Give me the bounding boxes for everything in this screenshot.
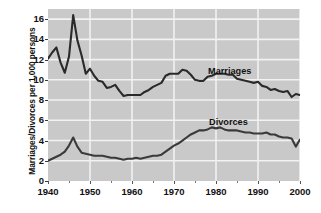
y-tick-mark [45, 19, 48, 20]
y-axis-tick-labels: 0246810121416 [22, 0, 44, 213]
x-tick-mark-minor [279, 181, 280, 183]
y-tick-mark [45, 120, 48, 121]
x-tick-mark-major [216, 181, 217, 184]
y-tick-label: 10 [26, 75, 44, 85]
y-tick-mark [45, 60, 48, 61]
series-label-marriages: Marriages [208, 66, 251, 76]
x-tick-label: 1940 [28, 186, 68, 197]
y-tick-label: 2 [26, 156, 44, 166]
y-tick-label: 4 [26, 136, 44, 146]
y-tick-label: 0 [26, 176, 44, 186]
y-tick-mark [45, 80, 48, 81]
x-tick-mark-minor [153, 181, 154, 183]
x-tick-mark-major [132, 181, 133, 184]
x-axis-tick-labels: 1940195019601970198019902000 [0, 186, 321, 202]
x-tick-mark-minor [195, 181, 196, 183]
gridlines [48, 9, 300, 181]
y-tick-mark [45, 141, 48, 142]
x-tick-label: 1960 [112, 186, 152, 197]
series-label-divorces: Divorces [209, 117, 248, 127]
y-tick-label: 12 [26, 55, 44, 65]
x-tick-mark-major [90, 181, 91, 184]
x-tick-mark-minor [111, 181, 112, 183]
y-tick-label: 6 [26, 115, 44, 125]
x-tick-mark-major [258, 181, 259, 184]
x-tick-mark-major [174, 181, 175, 184]
x-tick-mark-major [300, 181, 301, 184]
plot-svg [48, 9, 300, 181]
x-tick-label: 1980 [196, 186, 236, 197]
y-tick-mark [45, 100, 48, 101]
x-tick-label: 1950 [70, 186, 110, 197]
x-tick-label: 1970 [154, 186, 194, 197]
x-tick-label: 1990 [238, 186, 278, 197]
plot-frame [48, 9, 300, 181]
x-tick-label: 2000 [280, 186, 320, 197]
y-tick-label: 16 [26, 14, 44, 24]
x-tick-mark-minor [237, 181, 238, 183]
y-tick-mark [45, 161, 48, 162]
chart-container: Marriages/Divorces per 1,000 persons 024… [0, 0, 321, 213]
y-tick-label: 8 [26, 95, 44, 105]
y-tick-label: 14 [26, 34, 44, 44]
x-tick-mark-major [48, 181, 49, 184]
plot-area [48, 9, 300, 181]
x-tick-mark-minor [69, 181, 70, 183]
y-tick-mark [45, 39, 48, 40]
